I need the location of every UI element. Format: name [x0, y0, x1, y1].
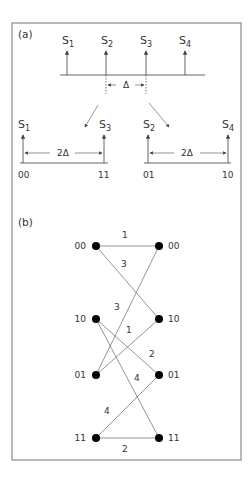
panel-b-label: (b) [18, 216, 33, 228]
left-subset: S1 S3 2Δ 00 11 [18, 118, 111, 180]
delta-label: Δ [123, 80, 130, 90]
edge-10-11 [96, 319, 159, 438]
symbol-label-s4: S4 [179, 34, 191, 49]
left-2delta-label: 2Δ [57, 148, 70, 158]
panel-a-label: (a) [18, 28, 33, 40]
right-2delta-label: 2Δ [181, 148, 194, 158]
right-state-00: 00 [168, 241, 180, 251]
left-state-00: 00 [75, 241, 87, 251]
symbol-label-right-s4: S4 [222, 118, 234, 133]
edge-00-10 [96, 246, 159, 319]
edge-label-01-10: 1 [126, 325, 132, 335]
left-node-11 [92, 434, 100, 442]
code-11: 11 [98, 170, 109, 180]
left-state-01: 01 [75, 370, 86, 380]
right-subset: S2 S4 2Δ 01 10 [143, 118, 234, 180]
edge-label-01-00: 3 [114, 302, 120, 312]
edge-label-11-11: 2 [122, 444, 128, 454]
symbol-label-left-s1: S1 [18, 118, 30, 133]
left-state-10: 10 [75, 314, 87, 324]
panel-b-trellis: (b) 1 3 2 4 3 1 4 2 00 10 01 11 00 10 [18, 216, 180, 454]
panel-a: (a) S1 S2 S3 S4 Δ S1 S3 2Δ [18, 28, 234, 180]
edge-label-00-10: 3 [121, 259, 127, 269]
right-node-01 [155, 371, 163, 379]
edge-label-10-11: 4 [134, 373, 140, 383]
symbol-label-s2: S2 [101, 34, 113, 49]
figure-canvas: (a) S1 S2 S3 S4 Δ S1 S3 2Δ [0, 0, 252, 477]
edge-label-11-01: 4 [104, 406, 110, 416]
code-01: 01 [143, 170, 154, 180]
right-node-11 [155, 434, 163, 442]
edge-label-10-01: 2 [149, 349, 155, 359]
left-state-11: 11 [75, 433, 86, 443]
code-00: 00 [18, 170, 30, 180]
right-state-10: 10 [168, 314, 180, 324]
code-10: 10 [222, 170, 234, 180]
symbol-label-s3: S3 [140, 34, 152, 49]
right-state-11: 11 [168, 433, 179, 443]
symbol-label-left-s3: S3 [99, 118, 111, 133]
left-node-10 [92, 315, 100, 323]
symbol-label-right-s2: S2 [143, 118, 155, 133]
left-node-01 [92, 371, 100, 379]
split-arrow-left [85, 105, 98, 127]
edge-label-00-00: 1 [122, 230, 128, 240]
right-node-00 [155, 242, 163, 250]
right-state-01: 01 [168, 370, 179, 380]
left-node-00 [92, 242, 100, 250]
symbol-label-s1: S1 [62, 34, 74, 49]
right-node-10 [155, 315, 163, 323]
